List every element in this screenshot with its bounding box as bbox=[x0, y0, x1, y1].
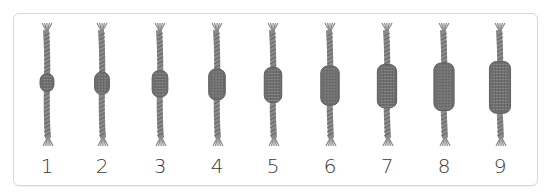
knotted-rope-icon bbox=[416, 22, 472, 152]
rope-number-label: 4 bbox=[189, 154, 245, 178]
rope-item: 1 bbox=[19, 0, 75, 195]
knotted-rope-icon bbox=[359, 22, 415, 152]
rope-number-label: 9 bbox=[472, 154, 528, 178]
knotted-rope-icon bbox=[132, 22, 188, 152]
knotted-rope-icon bbox=[302, 22, 358, 152]
rope-number-label: 3 bbox=[132, 154, 188, 178]
rope-item: 5 bbox=[245, 0, 301, 195]
knotted-rope-icon bbox=[245, 22, 301, 152]
knotted-rope-icon bbox=[19, 22, 75, 152]
rope-item: 9 bbox=[472, 0, 528, 195]
rope-item: 2 bbox=[74, 0, 130, 195]
knotted-rope-icon bbox=[74, 22, 130, 152]
rope-number-label: 8 bbox=[416, 154, 472, 178]
knotted-rope-icon bbox=[472, 22, 528, 152]
rope-number-label: 1 bbox=[19, 154, 75, 178]
rope-number-label: 7 bbox=[359, 154, 415, 178]
rope-item: 6 bbox=[302, 0, 358, 195]
rope-number-label: 2 bbox=[74, 154, 130, 178]
knotted-rope-icon bbox=[189, 22, 245, 152]
rope-item: 3 bbox=[132, 0, 188, 195]
rope-item: 8 bbox=[416, 0, 472, 195]
rope-number-label: 6 bbox=[302, 154, 358, 178]
rope-number-label: 5 bbox=[245, 154, 301, 178]
rope-item: 4 bbox=[189, 0, 245, 195]
rope-item: 7 bbox=[359, 0, 415, 195]
